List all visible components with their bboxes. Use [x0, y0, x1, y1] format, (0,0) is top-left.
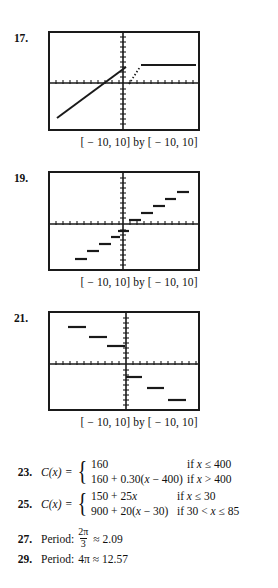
case-expression: 150 + 25x: [91, 489, 177, 504]
fraction-numerator: 2π: [77, 527, 89, 538]
problem-number-17: 17.: [0, 32, 28, 44]
problem-number-21: 21.: [0, 312, 28, 324]
piecewise-25: { 150 + 25x if x ≤ 30 900 + 20(x − 30) i…: [76, 489, 239, 518]
period-label-27: Period:: [41, 533, 74, 545]
period-value-29: 4π: [78, 553, 90, 565]
window-caption-19: [ − 10, 10] by [ − 10, 10]: [0, 276, 278, 288]
function-label-23: C(x): [41, 466, 61, 478]
answer-row-25: 25. C(x) = { 150 + 25x if x ≤ 30 900 + 2…: [6, 489, 239, 518]
step-segments: [75, 192, 189, 259]
calculator-graph-19: [50, 173, 198, 269]
graph-svg-21: [50, 313, 198, 409]
calculator-screen-17: [48, 31, 200, 131]
cases-23: 160 if x ≤ 400 160 + 0.30(x − 400) if x …: [91, 457, 232, 486]
calculator-graph-17: [50, 33, 198, 129]
answer-row-29: 29. Period: 4π ≈ 12.57: [6, 553, 128, 565]
window-caption-21: [ − 10, 10] by [ − 10, 10]: [0, 416, 278, 428]
problem-number-23: 23.: [6, 466, 32, 478]
calculator-graph-21: [50, 313, 198, 409]
case-expression: 900 + 20(x − 30): [91, 504, 177, 519]
rising-ray: [57, 67, 126, 118]
left-brace-icon: {: [78, 457, 88, 486]
case-expression: 160: [91, 457, 187, 472]
case-condition: if x ≤ 400: [187, 457, 231, 472]
answer-row-23: 23. C(x) = { 160 if x ≤ 400 160 + 0.30(x…: [6, 457, 231, 486]
period-fraction-27: 2π 3: [77, 527, 89, 549]
approx-symbol-29: ≈: [93, 553, 99, 565]
case-condition: if x > 400: [187, 472, 232, 487]
case-expression: 160 + 0.30(x − 400): [91, 472, 187, 487]
cases-25: 150 + 25x if x ≤ 30 900 + 20(x − 30) if …: [91, 489, 239, 518]
left-brace-icon: {: [78, 489, 88, 518]
approx-symbol-27: ≈: [93, 533, 99, 545]
period-label-29: Period:: [41, 553, 74, 565]
problem-number-19: 19.: [0, 172, 28, 184]
graph-svg-17: [50, 33, 198, 129]
problem-number-25: 25.: [6, 498, 32, 510]
equals-sign-23: =: [65, 466, 72, 478]
window-caption-17: [ − 10, 10] by [ − 10, 10]: [0, 136, 278, 148]
jump-dotted: [129, 67, 140, 84]
case-line: 160 + 0.30(x − 400) if x > 400: [91, 472, 232, 487]
case-condition: if 30 < x ≤ 85: [177, 504, 239, 519]
answer-row-27: 27. Period: 2π 3 ≈ 2.09: [6, 528, 123, 550]
problem-number-29: 29.: [6, 553, 32, 565]
case-line: 160 if x ≤ 400: [91, 457, 232, 472]
graph-svg-19: [50, 173, 198, 269]
case-line: 900 + 20(x − 30) if 30 < x ≤ 85: [91, 504, 239, 519]
equals-sign-25: =: [65, 498, 72, 510]
function-label-25: C(x): [41, 498, 61, 510]
case-condition: if x ≤ 30: [177, 489, 216, 504]
approx-value-27: 2.09: [103, 533, 123, 545]
piecewise-23: { 160 if x ≤ 400 160 + 0.30(x − 400) if …: [76, 457, 231, 486]
calculator-screen-19: [48, 171, 200, 271]
calculator-screen-21: [48, 311, 200, 411]
approx-value-29: 12.57: [102, 553, 128, 565]
fraction-denominator: 3: [80, 538, 87, 550]
problem-number-27: 27.: [6, 533, 32, 545]
case-line: 150 + 25x if x ≤ 30: [91, 489, 239, 504]
